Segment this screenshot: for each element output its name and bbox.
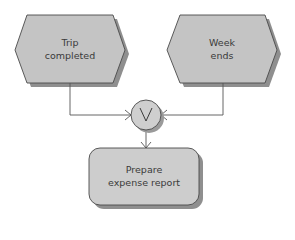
- connector-left: [70, 83, 131, 120]
- function-label: Prepare expense report: [89, 163, 199, 189]
- connector-right: [161, 83, 223, 120]
- label-line: completed: [20, 49, 120, 62]
- operator-circle: [131, 100, 161, 130]
- label-line: Trip: [20, 36, 120, 49]
- event-label-trip-completed: Trip completed: [20, 36, 120, 62]
- event-label-week-ends: Week ends: [172, 36, 272, 62]
- label-line: ends: [172, 49, 272, 62]
- label-line: Week: [172, 36, 272, 49]
- or-operator[interactable]: [131, 100, 164, 133]
- label-line: Prepare: [89, 163, 199, 176]
- label-line: expense report: [89, 176, 199, 189]
